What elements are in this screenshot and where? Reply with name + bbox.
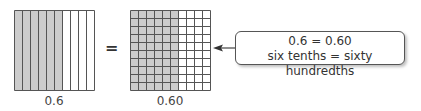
- arrow-left-icon: [213, 43, 237, 53]
- callout-words: six tenths = sixty hundredths: [236, 49, 404, 79]
- hundredths-label: 0.60: [130, 94, 210, 108]
- callout-equation: 0.6 = 0.60: [236, 34, 404, 49]
- tenths-grid: [14, 10, 95, 91]
- callout-box: 0.6 = 0.60 six tenths = sixty hundredths: [235, 31, 405, 65]
- equals-sign: =: [105, 38, 118, 57]
- tenths-label: 0.6: [14, 94, 94, 108]
- hundredths-grid: [130, 10, 211, 91]
